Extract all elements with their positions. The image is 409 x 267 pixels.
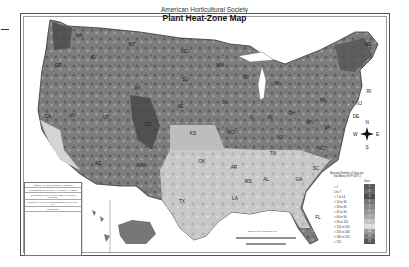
state-label-tx: TX <box>179 199 186 204</box>
state-label-fl: FL <box>315 215 321 220</box>
state-label-il: IL <box>250 115 254 120</box>
southern-hot-zone <box>160 148 330 240</box>
state-label-tn: TN <box>270 151 277 156</box>
legend-zone-header: Zone <box>364 180 370 183</box>
credits-line: Cartography <box>25 207 81 212</box>
state-label-ky: KY <box>278 135 285 140</box>
state-label-sc: SC <box>313 166 320 171</box>
legend-title: Average Number of Days per Year Above 86… <box>330 172 364 178</box>
legend-zone-number: 10 <box>364 230 375 233</box>
compass-n-label: N <box>365 120 369 125</box>
state-label-ga: GA <box>296 177 304 182</box>
state-label-nd: ND <box>182 49 189 54</box>
state-label-mo: MO <box>227 130 235 135</box>
legend-zone-number: 11 <box>364 235 375 238</box>
legend-range: > 210 <box>334 240 341 244</box>
state-label-ok: OK <box>199 159 207 164</box>
credits-box: AMERICAN HORTICULTURAL SOCIETY 7931 East… <box>24 182 82 256</box>
state-label-nj: NJ <box>356 101 362 106</box>
state-label-co: CO <box>144 122 151 127</box>
state-label-ut: UT <box>103 115 109 120</box>
state-label-oh: OH <box>288 111 296 116</box>
legend-zone-number: 2 <box>364 190 375 193</box>
compass-e-label: E <box>376 132 379 137</box>
state-label-ms: MS <box>244 179 251 184</box>
compass-rose: N S E W <box>353 120 379 150</box>
state-label-ri: RI <box>367 89 372 94</box>
state-label-mi: MI <box>274 81 279 86</box>
state-label-pa: PA <box>320 98 327 103</box>
state-label-nm: NM <box>137 163 144 168</box>
state-label-wv: WV <box>306 120 315 125</box>
state-label-va: VA <box>324 125 331 130</box>
legend-zone-number: 7 <box>364 215 375 218</box>
legend-zone-number: 5 <box>364 205 375 208</box>
scale-caption: Scale for the mainland U.S. <box>248 230 277 233</box>
state-label-nc: NC <box>318 146 325 151</box>
state-label-de: DE <box>353 114 360 119</box>
state-label-mn: MN <box>216 63 224 68</box>
legend-zone-number: 3 <box>364 195 375 198</box>
legend-zone-number: 8 <box>364 220 375 223</box>
legend-zone-number: 6 <box>364 210 375 213</box>
state-label-ca: CA <box>45 114 52 119</box>
state-label-al: AL <box>263 177 269 182</box>
state-label-id: ID <box>91 55 96 60</box>
legend-zone-number: 1 <box>364 185 375 188</box>
legend-zone-number: 12 <box>364 240 375 243</box>
heat-zone-legend: Average Number of Days per Year Above 86… <box>330 172 386 178</box>
state-label-sd: SD <box>182 77 189 82</box>
state-label-ne: NE <box>177 104 184 109</box>
state-label-wa: WA <box>75 33 83 38</box>
state-label-ar: AR <box>231 165 238 170</box>
state-label-wi: WI <box>243 75 249 80</box>
legend-row: > 21012 <box>330 239 378 244</box>
alaska-inset <box>118 220 156 244</box>
state-label-ks: KS <box>190 131 196 136</box>
state-label-ia: IA <box>223 100 228 105</box>
state-label-in: IN <box>268 115 273 120</box>
hawaii-inset <box>92 210 110 242</box>
legend-rows: < 111 to 72> 7 to 143> 14 to 304> 30 to … <box>330 184 378 244</box>
credits-line: Coordinated by Dr. H. Marc Cathey, Presi… <box>25 193 81 200</box>
legend-zone-number: 4 <box>364 200 375 203</box>
state-label-me: ME <box>364 42 371 47</box>
state-label-wy: WY <box>134 86 143 91</box>
compass-w-label: W <box>353 132 358 137</box>
credits-line: Compiled by Meteorological Evaluation Se… <box>25 200 81 207</box>
map-title: Plant Heat-Zone Map <box>0 13 409 23</box>
compass-s-label: S <box>365 145 368 150</box>
state-label-or: OR <box>54 63 62 68</box>
state-label-nv: NV <box>69 113 76 118</box>
org-name: American Horticultural Society <box>0 6 409 13</box>
legend-zone-number: 9 <box>364 225 375 228</box>
state-label-az: AZ <box>95 161 101 166</box>
state-label-la: LA <box>232 196 239 201</box>
state-label-mt: MT <box>129 42 136 47</box>
